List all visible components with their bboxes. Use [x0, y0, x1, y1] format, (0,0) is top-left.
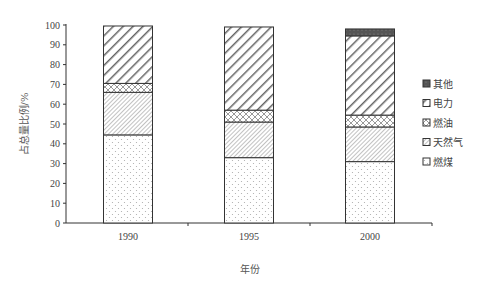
y-tick-label: 30	[50, 158, 60, 169]
bar-1990	[104, 26, 153, 223]
y-tick-label: 60	[50, 99, 60, 110]
y-tick-label: 90	[50, 39, 60, 50]
bar-segment	[104, 83, 153, 92]
legend-label: 其他	[433, 78, 453, 90]
legend-swatch	[423, 100, 430, 107]
bar-2000	[346, 29, 395, 223]
y-tick-label: 0	[55, 218, 60, 229]
y-axis-title: 占总量比例/%	[18, 93, 30, 156]
bar-segment	[225, 27, 274, 110]
y-tick-label: 40	[50, 138, 60, 149]
legend-swatch	[423, 139, 430, 146]
bar-1995	[225, 27, 274, 223]
bar-segment	[225, 122, 274, 158]
bar-segment	[346, 162, 395, 223]
bar-segment	[346, 115, 395, 127]
bar-segment	[346, 29, 395, 36]
bar-segment	[225, 158, 274, 223]
x-axis: 199019952000	[66, 223, 432, 242]
y-tick-label: 100	[45, 20, 60, 31]
legend-label: 天然气	[433, 136, 463, 148]
x-axis-title: 年份	[240, 263, 260, 275]
legend-label: 燃油	[433, 117, 453, 129]
y-axis: 0102030405060708090100	[45, 20, 66, 229]
y-tick-label: 80	[50, 59, 60, 70]
bar-segment	[104, 92, 153, 135]
bar-segment	[346, 36, 395, 115]
y-tick-label: 70	[50, 79, 60, 90]
bar-segment	[225, 110, 274, 122]
y-tick-label: 20	[50, 178, 60, 189]
legend-label: 燃煤	[433, 156, 453, 168]
bar-segment	[104, 135, 153, 223]
x-tick-label: 2000	[360, 231, 380, 242]
stacked-bar-chart: 0102030405060708090100 199019952000 其他电力…	[0, 0, 478, 289]
legend-label: 电力	[433, 97, 453, 109]
bars	[104, 26, 395, 223]
y-tick-label: 10	[50, 198, 60, 209]
bar-segment	[346, 127, 395, 162]
legend: 其他电力燃油天然气燃煤	[423, 78, 463, 168]
legend-swatch	[423, 119, 430, 126]
x-tick-label: 1990	[118, 231, 138, 242]
legend-swatch	[423, 158, 430, 165]
legend-swatch	[423, 80, 430, 87]
bar-segment	[104, 26, 153, 83]
y-tick-label: 50	[50, 119, 60, 130]
x-tick-label: 1995	[239, 231, 259, 242]
